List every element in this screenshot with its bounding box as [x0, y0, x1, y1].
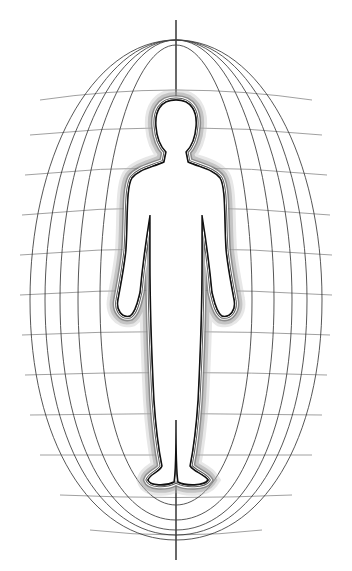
energy-field-illustration: [0, 0, 352, 571]
illustration-canvas: Line drawing of a standing human outline…: [0, 0, 352, 571]
